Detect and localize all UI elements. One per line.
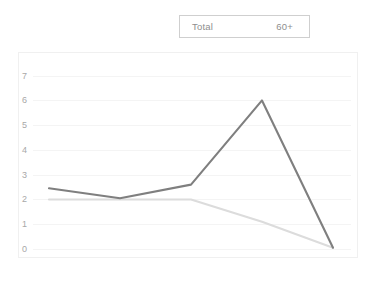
series-line-total bbox=[49, 100, 333, 247]
chart-legend: Total 60+ bbox=[179, 15, 310, 38]
series-line-60plus bbox=[49, 199, 333, 247]
legend-item-60plus: 60+ bbox=[276, 21, 293, 32]
series-container bbox=[19, 53, 359, 259]
legend-item-total: Total bbox=[192, 21, 213, 32]
plot-area: 01234567 bbox=[19, 53, 357, 257]
line-chart: 01234567 1950-551975-802000-052025-30204… bbox=[18, 52, 358, 258]
